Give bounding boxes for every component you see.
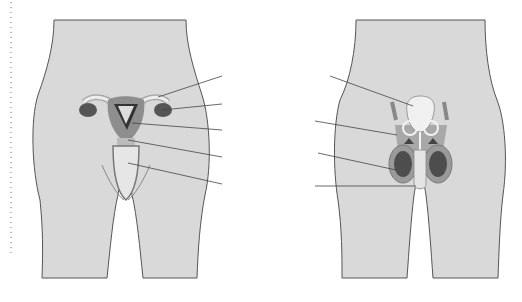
anatomy-diagram <box>0 0 522 302</box>
